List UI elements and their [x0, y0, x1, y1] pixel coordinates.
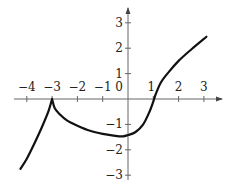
x-tick-label: −3: [43, 80, 61, 94]
x-tick-label: −4: [18, 80, 36, 94]
x-tick-label: 1: [147, 80, 155, 94]
x-tick-label: 0: [115, 80, 123, 94]
y-tick-label: 3: [115, 16, 123, 30]
y-tick-label: −1: [105, 117, 123, 131]
y-tick-label: 1: [115, 67, 123, 81]
y-tick-label: −2: [105, 143, 123, 157]
x-tick-label: −2: [69, 80, 87, 94]
x-tick-label: 2: [175, 80, 183, 94]
x-tick-label: 3: [200, 80, 208, 94]
y-tick-label: −3: [105, 168, 123, 182]
x-tick-label: −1: [94, 80, 112, 94]
y-tick-label: 2: [115, 41, 123, 55]
chart: −4−3−2−10123 321−1−2−3: [0, 0, 229, 191]
